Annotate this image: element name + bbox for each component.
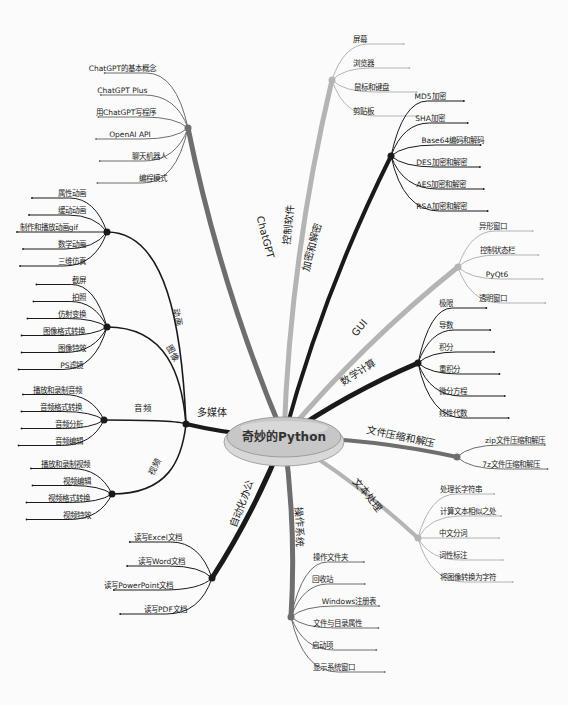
root-node[interactable]: 奇妙的Python bbox=[224, 417, 344, 466]
branch-os-leaf-label[interactable]: 文件与目录属性 bbox=[313, 618, 363, 628]
branch-math-leaf-label[interactable]: 线性代数 bbox=[439, 408, 468, 418]
branch-math-leaf-label[interactable]: 极限 bbox=[439, 298, 454, 308]
branch-os-leaf-label[interactable]: 操作文件夹 bbox=[313, 552, 349, 562]
sub-branch-leaf-label[interactable]: PS滤镜 bbox=[60, 360, 84, 370]
branch-math-leaf-label[interactable]: 积分 bbox=[439, 342, 454, 352]
sub-branch-label[interactable]: 音频 bbox=[134, 403, 152, 413]
branch-chatgpt-leaf-label[interactable]: ChatGPT的基本概念 bbox=[89, 63, 157, 73]
branch-crypto-trunk bbox=[284, 156, 391, 437]
branch-os-leaf-end-dot bbox=[375, 649, 377, 651]
sub-branch-leaf-end-dot bbox=[21, 352, 23, 354]
sub-branch-label[interactable]: 动画 bbox=[171, 308, 184, 327]
branch-math-leaf-label[interactable]: 微分方程 bbox=[439, 386, 468, 396]
branch-gui-leaf-end-dot bbox=[532, 230, 534, 232]
branch-text-leaf-label[interactable]: 将图像转换为字符 bbox=[440, 572, 497, 582]
branch-crypto-leaf-label[interactable]: DES加密和解密 bbox=[416, 157, 467, 167]
branch-text-leaf-label[interactable]: 计算文本相似之处 bbox=[440, 506, 497, 516]
branch-chatgpt-leaf-label[interactable]: OpenAI API bbox=[109, 130, 151, 139]
branch-chatgpt-leaf-label[interactable]: 用ChatGPT写程序 bbox=[96, 107, 157, 117]
branch-gui-leaf-end-dot bbox=[542, 278, 544, 280]
sub-branch-leaf-label[interactable]: 图像特效 bbox=[58, 343, 87, 353]
branch-crypto-leaf-label[interactable]: AES加密和解密 bbox=[417, 179, 468, 189]
sub-branch-leaf-end-dot bbox=[26, 519, 28, 521]
sub-branch-leaf-end-dot bbox=[21, 411, 23, 413]
branch-office-leaf-label[interactable]: 读写PowerPoint文档 bbox=[104, 580, 173, 590]
sub-branch-leaf-label[interactable]: 缓动动画 bbox=[58, 205, 86, 215]
branch-zip-leaf-label[interactable]: 7z文件压缩和解压 bbox=[482, 459, 541, 469]
branch-control-leaf-label[interactable]: 剪贴板 bbox=[353, 106, 375, 116]
sub-branch-leaf-label[interactable]: 仿射变换 bbox=[58, 309, 87, 319]
branch-control-label[interactable]: 控制软件 bbox=[280, 204, 295, 245]
sub-branch-leaf-end-dot bbox=[19, 265, 21, 267]
branch-chatgpt-leaf-end-dot bbox=[96, 182, 98, 184]
branch-math-leaf-label[interactable]: 重积分 bbox=[439, 364, 461, 374]
branch-os-leaf-label[interactable]: Windows注册表 bbox=[322, 596, 377, 606]
branch-os-leaf-label[interactable]: 回收站 bbox=[312, 574, 334, 584]
branch-chatgpt-leaf-label[interactable]: ChatGPT Plus bbox=[97, 86, 147, 95]
branch-control-leaf-end-dot bbox=[409, 67, 411, 69]
branch-chatgpt-leaf-edge bbox=[98, 117, 188, 128]
branch-os-label[interactable]: 操作系统 bbox=[293, 507, 306, 547]
branch-gui-leaf-label[interactable]: 异形窗口 bbox=[479, 221, 507, 231]
sub-branch-leaf-label[interactable]: 视频格式转换 bbox=[48, 493, 91, 503]
branch-chatgpt-leaf-edge bbox=[105, 73, 188, 128]
sub-branch-leaf-label[interactable]: 播放和录制音频 bbox=[33, 385, 83, 395]
branch-os-leaf-label[interactable]: 显示系统窗口 bbox=[313, 662, 355, 672]
branch-media-label[interactable]: 多媒体 bbox=[197, 406, 227, 418]
branch-office-leaf-edge bbox=[127, 566, 212, 578]
sub-branch-label[interactable]: 视频 bbox=[146, 456, 164, 477]
sub-branch-leaf-label[interactable]: 音频分析 bbox=[55, 419, 84, 429]
branch-gui-label[interactable]: GUI bbox=[349, 317, 369, 338]
branch-crypto-leaf-end-dot bbox=[487, 210, 489, 212]
sub-branch-leaf-label[interactable]: 视频特效 bbox=[63, 510, 92, 520]
sub-branch-leaf-label[interactable]: 数学动画 bbox=[58, 239, 86, 249]
branch-office-leaf-label[interactable]: 读写Excel文档 bbox=[134, 532, 182, 542]
branch-chatgpt-leaf-label[interactable]: 聊天机器人 bbox=[132, 151, 168, 161]
branch-crypto-leaf-end-dot bbox=[467, 122, 469, 124]
branch-math-leaf-end-dot bbox=[499, 373, 501, 375]
branch-crypto-leaf-label[interactable]: RSA加密和解密 bbox=[416, 201, 467, 211]
branch-crypto-leaf-label[interactable]: SHA加密 bbox=[415, 113, 446, 123]
branch-crypto-leaf-end-dot bbox=[479, 166, 481, 168]
branch-math-leaf-label[interactable]: 导数 bbox=[439, 320, 454, 330]
sub-branch-leaf-label[interactable]: 播放和录制视频 bbox=[41, 459, 91, 469]
branch-text-leaf-label[interactable]: 中文分词 bbox=[439, 528, 467, 538]
branch-math-leaf-edge bbox=[418, 352, 494, 363]
branch-office-leaf-label[interactable]: 读写PDF文档 bbox=[144, 604, 187, 614]
branch-os-leaf-label[interactable]: 启动项 bbox=[312, 640, 334, 650]
branch-gui-leaf-label[interactable]: 透明窗口 bbox=[479, 293, 507, 303]
sub-branch-leaf-end-dot bbox=[32, 485, 34, 487]
sub-branch-leaf-label[interactable]: 截屏 bbox=[72, 275, 87, 285]
branch-text-leaf-label[interactable]: 处理长字符串 bbox=[440, 484, 482, 494]
branch-math-leaf-end-dot bbox=[504, 395, 506, 397]
sub-branch-leaf-label[interactable]: 属性动画 bbox=[58, 188, 86, 198]
branch-office-label[interactable]: 自动化办公 bbox=[227, 478, 255, 529]
branch-chatgpt-trunk bbox=[188, 128, 284, 437]
sub-branch-leaf-label[interactable]: 音频编辑 bbox=[55, 436, 84, 446]
sub-branch-leaf-label[interactable]: 拍照 bbox=[72, 292, 87, 302]
branch-zip-leaf-label[interactable]: zip文件压缩和解压 bbox=[485, 435, 546, 445]
sub-branch-leaf-label[interactable]: 音频格式转换 bbox=[40, 402, 83, 412]
branch-control-leaf-label[interactable]: 鼠标和键盘 bbox=[354, 82, 390, 92]
sub-branch-leaf-label[interactable]: 视频编辑 bbox=[63, 476, 92, 486]
branch-text-label[interactable]: 文本处理 bbox=[351, 475, 386, 513]
branch-control-leaf-label[interactable]: 浏览器 bbox=[353, 58, 375, 68]
sub-branch-leaf-label[interactable]: 制作和播放动画gif bbox=[20, 222, 79, 232]
branch-os-leaf-end-dot bbox=[364, 583, 366, 585]
branch-gui-leaf-label[interactable]: 控制状态栏 bbox=[480, 245, 516, 255]
branch-chatgpt-leaf-label[interactable]: 编程模式 bbox=[139, 173, 168, 183]
mind-map-canvas: ChatGPTChatGPT的基本概念ChatGPT Plus用ChatGPT写… bbox=[0, 0, 568, 705]
branch-control-leaf-label[interactable]: 屏幕 bbox=[353, 34, 368, 44]
branch-os-leaf-edge bbox=[291, 606, 379, 617]
branch-math-leaf-edge bbox=[418, 308, 486, 363]
branch-text-leaf-label[interactable]: 词性标注 bbox=[439, 550, 468, 560]
branch-gui-leaf-label[interactable]: PyQt6 bbox=[486, 270, 509, 279]
sub-branch-leaf-label[interactable]: 三维仿真 bbox=[58, 256, 87, 266]
branch-crypto-leaf-label[interactable]: MD5加密 bbox=[414, 91, 446, 101]
branch-office-leaf-label[interactable]: 读写Word文档 bbox=[138, 556, 185, 566]
sub-branch-leaf-label[interactable]: 图像格式转换 bbox=[43, 326, 86, 336]
branch-crypto-leaf-edge bbox=[391, 101, 464, 156]
sub-2-edge bbox=[104, 420, 186, 424]
branch-crypto-leaf-label[interactable]: Base64编码和解码 bbox=[421, 135, 485, 145]
branch-chatgpt-label[interactable]: ChatGPT bbox=[254, 215, 276, 260]
